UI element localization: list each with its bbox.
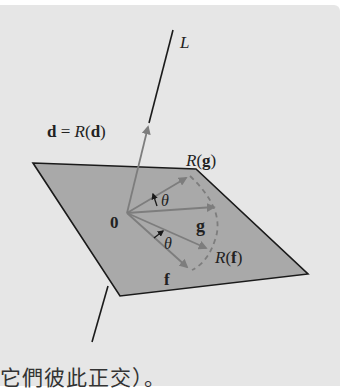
label-f: f [164, 270, 170, 289]
plane [33, 163, 308, 296]
caption-fragment: 它們彼此正交）。 [0, 366, 340, 390]
label-Rf: R(f) [214, 248, 242, 267]
label-d-equals-Rd: d = R(d) [47, 122, 106, 141]
label-origin: 0 [110, 213, 119, 232]
label-Rg: R(g) [185, 151, 216, 170]
label-g: g [196, 216, 205, 236]
axis-line-lower [92, 286, 108, 342]
label-theta-top: θ [161, 192, 169, 209]
label-theta-bottom: θ [164, 235, 172, 252]
label-L: L [179, 33, 189, 52]
axis-line-upper [149, 30, 173, 123]
